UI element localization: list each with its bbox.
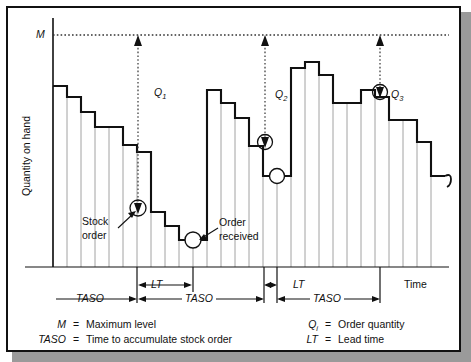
q3-label: Q3 [391,88,403,103]
chart-stage [0,0,471,362]
y-axis-label: Quantity on hand [20,96,32,216]
legend-equals-lt: = [321,333,335,345]
q1-arrowhead-up [134,35,142,46]
legend-text-lt: Lead time [338,333,384,345]
legend: M = Maximum level TASO = Time to accumul… [18,318,458,350]
maximum-level-label: M [36,28,45,40]
order-quantity-arrows [134,35,384,214]
x-axis-label: Time [404,278,427,290]
legend-row-taso: TASO = Time to accumulate stock order [18,333,232,345]
q3-arrowhead-up [376,35,384,46]
legend-equals-q: = [321,318,335,330]
legend-symbol-m: M [18,318,66,330]
series-continuation-squiggle [445,175,451,187]
legend-symbol-lt: LT [296,333,318,345]
order-received-marker-2 [270,169,285,184]
legend-text-q: Order quantity [338,318,405,330]
taso-label-3: TASO [310,292,344,304]
order-received-label-line1: Order [219,216,246,228]
q1-label: Q1 [154,86,166,101]
q2-arrowhead-up [261,35,269,46]
legend-equals-m: = [69,318,83,330]
legend-text-m: Maximum level [86,318,156,330]
stock-order-label-line1: Stock [82,215,108,227]
legend-symbol-taso: TASO [18,333,66,345]
legend-row-q: Qi = Order quantity [296,318,405,333]
stock-order-label-line2: order [82,229,107,241]
order-received-marker-1 [185,232,201,248]
q2-label: Q2 [275,88,287,103]
inventory-chart-svg [0,0,471,362]
order-received-label-line2: received [219,230,259,242]
taso-label-2: TASO [182,292,216,304]
legend-row-m: M = Maximum level [18,318,156,330]
taso-label-1: TASO [76,292,104,304]
legend-text-taso: Time to accumulate stock order [86,333,232,345]
legend-symbol-q: Qi [296,318,318,333]
lt-label-2: LT [293,278,304,290]
legend-equals-taso: = [69,333,83,345]
lt-label-1: LT [151,278,162,290]
legend-row-lt: LT = Lead time [296,333,384,345]
